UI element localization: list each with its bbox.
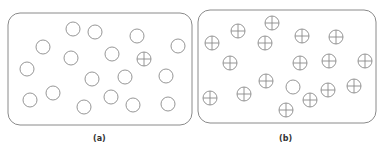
plain-particle-icon bbox=[46, 86, 60, 100]
plain-particle-icon bbox=[105, 47, 119, 61]
diagram-canvas bbox=[0, 0, 384, 152]
crossed-particle-icon bbox=[321, 83, 335, 97]
crossed-particle-icon bbox=[237, 87, 251, 101]
plain-particle-icon bbox=[130, 29, 144, 43]
plain-particle-icon bbox=[118, 70, 132, 84]
crossed-particle-icon bbox=[265, 16, 279, 30]
plain-particle-icon bbox=[23, 93, 37, 107]
plain-particle-icon bbox=[171, 39, 185, 53]
container-box bbox=[198, 10, 376, 123]
plain-particle-icon bbox=[36, 40, 50, 54]
plain-particle-icon bbox=[161, 97, 175, 111]
crossed-particle-icon bbox=[203, 91, 217, 105]
crossed-particle-icon bbox=[137, 52, 151, 66]
crossed-particle-icon bbox=[258, 36, 272, 50]
plain-particle-icon bbox=[88, 25, 102, 39]
plain-particle-icon bbox=[85, 72, 99, 86]
crossed-particle-icon bbox=[358, 54, 372, 68]
crossed-particle-icon bbox=[347, 79, 361, 93]
crossed-particle-icon bbox=[205, 36, 219, 50]
crossed-particle-icon bbox=[329, 30, 343, 44]
crossed-particle-icon bbox=[322, 54, 336, 68]
panel-b-label: (b) bbox=[279, 134, 292, 143]
plain-particle-icon bbox=[126, 98, 140, 112]
plain-particle-icon bbox=[64, 51, 78, 65]
crossed-particle-icon bbox=[279, 103, 293, 117]
crossed-particle-icon bbox=[293, 56, 307, 70]
crossed-particle-icon bbox=[231, 24, 245, 38]
plain-particle-icon bbox=[66, 22, 80, 36]
crossed-particle-icon bbox=[303, 93, 317, 107]
panel-a-label: (a) bbox=[93, 134, 106, 143]
plain-particle-icon bbox=[77, 100, 91, 114]
crossed-particle-icon bbox=[223, 56, 237, 70]
plain-particle-icon bbox=[104, 90, 118, 104]
plain-particle-icon bbox=[20, 62, 34, 76]
panel-b bbox=[198, 10, 376, 123]
crossed-particle-icon bbox=[259, 74, 273, 88]
plain-particle-icon bbox=[286, 80, 300, 94]
panel-a bbox=[8, 13, 192, 125]
plain-particle-icon bbox=[159, 69, 173, 83]
crossed-particle-icon bbox=[295, 29, 309, 43]
